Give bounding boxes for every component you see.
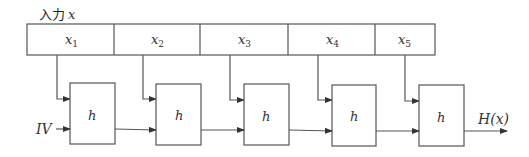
block-x2: x2: [151, 32, 164, 49]
input-label: 入力: [39, 7, 65, 22]
iv-label: IV: [35, 121, 54, 137]
input-blocks: [27, 24, 435, 55]
input-variable: x: [68, 7, 76, 22]
output-label: H(x): [477, 111, 509, 127]
merkle-damgard-diagram: 入力 x x1 x2 x3 x4 x5 h h h h h I: [0, 0, 529, 157]
block-x1: x1: [65, 32, 78, 49]
svg-text:h: h: [175, 108, 183, 123]
svg-text:h: h: [350, 109, 358, 124]
block-x4: x4: [326, 32, 339, 49]
block-x5: x5: [398, 32, 411, 49]
h-labels: h h h h h: [88, 108, 445, 125]
block-x3: x3: [238, 32, 251, 49]
block-labels: x1 x2 x3 x4 x5: [65, 32, 411, 49]
svg-text:h: h: [262, 109, 270, 124]
svg-text:h: h: [88, 108, 96, 123]
svg-text:h: h: [437, 110, 445, 125]
